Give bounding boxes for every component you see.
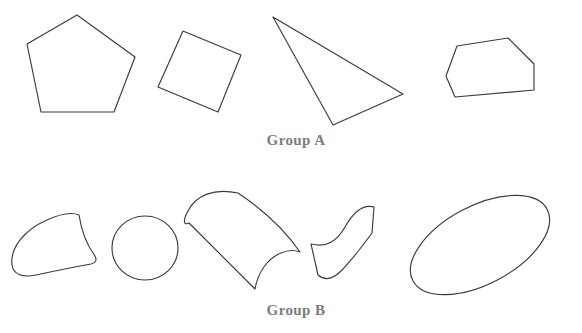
group-a-shapes <box>27 15 534 125</box>
shape-curved-cylinder <box>184 191 300 289</box>
shape-irregular-hexagon <box>446 38 534 97</box>
shape-scalene-triangle <box>273 17 403 125</box>
shape-pentagon <box>27 15 135 112</box>
shape-wavy-s-shape <box>311 206 374 278</box>
shape-tilted-ellipse <box>395 175 566 315</box>
shape-figure: Group A Group B <box>0 0 582 333</box>
group-a-label: Group A <box>236 132 356 149</box>
shapes-canvas <box>0 0 582 333</box>
shape-curved-blob <box>12 214 96 276</box>
group-b-label: Group B <box>236 302 356 319</box>
shape-circle <box>112 216 178 280</box>
group-b-shapes <box>12 175 566 315</box>
shape-tilted-square <box>158 31 241 112</box>
